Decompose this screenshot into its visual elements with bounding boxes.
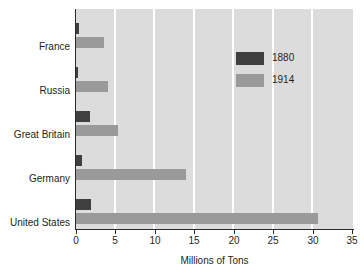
- gridline-5: [114, 9, 116, 229]
- x-tick-label-20: 20: [214, 235, 254, 247]
- x-tick-mark-35: [352, 230, 353, 234]
- gridline-20: [232, 9, 234, 229]
- y-axis-line: [75, 9, 76, 230]
- gridline-30: [311, 9, 313, 229]
- x-tick-mark-30: [313, 230, 314, 234]
- x-tick-label-0: 0: [56, 235, 96, 247]
- legend-swatch-1914-icon: [236, 74, 264, 87]
- bar-france-1914: [76, 37, 104, 48]
- plot-area: 1880 1914: [76, 9, 353, 229]
- bar-germany-1880: [76, 155, 82, 166]
- x-tick-label-15: 15: [174, 235, 214, 247]
- x-tick-mark-15: [194, 230, 195, 234]
- x-tick-mark-20: [234, 230, 235, 234]
- x-tick-mark-0: [76, 230, 77, 234]
- x-tick-label-30: 30: [293, 235, 333, 247]
- gridline-15: [193, 9, 195, 229]
- y-axis-label-united-states: United States: [0, 217, 70, 228]
- x-axis-title: Millions of Tons: [76, 255, 353, 267]
- bar-great-britain-1914: [76, 125, 118, 136]
- bar-russia-1880: [76, 67, 78, 78]
- x-tick-label-5: 5: [95, 235, 135, 247]
- x-tick-mark-10: [155, 230, 156, 234]
- y-axis-label-france: France: [0, 41, 70, 52]
- bar-russia-1914: [76, 81, 108, 92]
- gridline-25: [272, 9, 274, 229]
- bar-germany-1914: [76, 169, 186, 180]
- y-axis-category-labels: France Russia Great Britain Germany Unit…: [0, 9, 73, 229]
- x-tick-mark-25: [273, 230, 274, 234]
- y-axis-label-russia: Russia: [0, 85, 70, 96]
- x-tick-mark-5: [115, 230, 116, 234]
- legend-swatch-1880-icon: [236, 52, 264, 65]
- y-axis-label-great-britain: Great Britain: [0, 129, 70, 140]
- legend-label-1880: 1880: [272, 51, 294, 65]
- x-tick-label-25: 25: [253, 235, 293, 247]
- x-tick-label-10: 10: [135, 235, 175, 247]
- x-tick-label-35: 35: [332, 235, 364, 247]
- bar-united-states-1914: [76, 213, 318, 224]
- bar-chart: France Russia Great Britain Germany Unit…: [0, 0, 364, 276]
- bar-france-1880: [76, 23, 79, 34]
- y-axis-label-germany: Germany: [0, 173, 70, 184]
- legend-label-1914: 1914: [272, 73, 294, 87]
- gridline-10: [153, 9, 155, 229]
- bar-united-states-1880: [76, 199, 91, 210]
- bar-great-britain-1880: [76, 111, 90, 122]
